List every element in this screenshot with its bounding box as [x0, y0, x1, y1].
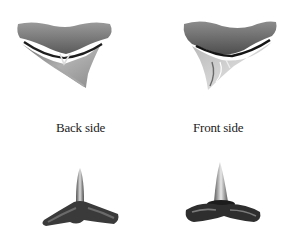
- tooth-back-lower-image: [40, 164, 122, 228]
- tooth-front-upper-image: [182, 16, 278, 90]
- back-side-label: Back side: [56, 120, 105, 136]
- tooth-back-upper-image: [14, 16, 114, 92]
- front-side-label: Front side: [193, 120, 243, 136]
- tooth-front-lower-image: [184, 160, 264, 226]
